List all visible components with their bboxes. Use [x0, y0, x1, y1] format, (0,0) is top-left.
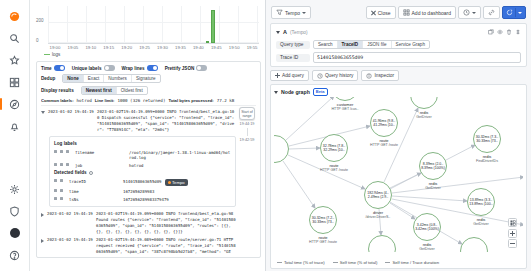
- toggle-label: Unique labels: [72, 66, 102, 71]
- graph-node[interactable]: [460, 237, 488, 252]
- wrap-lines-toggle[interactable]: [147, 65, 158, 71]
- oldest-first[interactable]: Oldest first: [117, 87, 147, 94]
- log-rows: 2023-01-02 19:44:19 2023-01-02T19:44:19.…: [41, 105, 256, 255]
- time-toggle[interactable]: [54, 65, 65, 71]
- dedup-signature[interactable]: Signature: [132, 75, 160, 82]
- tab-traceid[interactable]: TraceID: [338, 41, 364, 48]
- tab-search[interactable]: Search: [314, 41, 338, 48]
- log-row[interactable]: 2023-01-02 19:44:19 2023-01-02T19:44:19.…: [41, 236, 236, 255]
- graph-node[interactable]: 3.42ms (0.8..3.42ms (100%) redisGetDrive…: [413, 213, 441, 241]
- query-history-button[interactable]: Query history: [312, 70, 359, 81]
- run-query-button[interactable]: [502, 6, 526, 19]
- stats-icon[interactable]: [54, 197, 57, 200]
- explore-right-pane: Tempo Close Add to dashboard: [266, 0, 531, 271]
- beta-badge: Beta: [313, 88, 328, 96]
- close-split-button[interactable]: Close: [366, 6, 396, 19]
- log-volume-bar: [206, 41, 209, 43]
- share-link-button[interactable]: [483, 6, 500, 19]
- field-row: time 1672656289983: [54, 187, 231, 195]
- grafana-logo-icon[interactable]: [7, 8, 23, 24]
- help-icon[interactable]: [7, 247, 23, 263]
- start-of-range-button[interactable]: Start of range: [239, 107, 255, 120]
- filter-for-icon[interactable]: [60, 163, 63, 166]
- layout-grid-button[interactable]: [508, 218, 517, 227]
- logs-panel: Time Unique labels Wrap lines Prettify J…: [36, 61, 261, 258]
- collapse-icon[interactable]: [274, 91, 278, 94]
- chevron-down-icon: [302, 12, 306, 14]
- dedup-exact[interactable]: Exact: [84, 75, 105, 82]
- filter-out-icon[interactable]: [66, 163, 69, 166]
- graph-node[interactable]: [368, 235, 396, 252]
- graph-node[interactable]: 30.32ms (7.3..30.33ms (73.. redisFindDri…: [473, 125, 501, 153]
- stats-icon[interactable]: [54, 189, 57, 192]
- log-row[interactable]: 2023-01-02 19:44:19 2023-01-02T19:44:19.…: [41, 210, 236, 236]
- drag-handle-icon[interactable]: [515, 29, 521, 35]
- stats-icon[interactable]: [54, 179, 57, 182]
- y-tick: 0: [36, 38, 39, 43]
- nav-range-line: [247, 128, 248, 136]
- graph-node[interactable]: redisGetDriver: [410, 97, 438, 109]
- label-row: filename /root/binary/jaeger-1.38.1-linu…: [54, 148, 231, 161]
- trace-id-input[interactable]: [313, 52, 521, 63]
- starred-icon[interactable]: [7, 52, 23, 68]
- query-datasource-hint: (Tempo): [290, 30, 308, 35]
- expand-icon[interactable]: [41, 213, 44, 217]
- tab-service-graph[interactable]: Service Graph: [392, 41, 429, 48]
- apps-icon: [403, 9, 410, 16]
- chevron-down-icon[interactable]: [518, 12, 522, 14]
- inspector-button[interactable]: Inspector: [361, 70, 399, 81]
- filter-out-icon[interactable]: [66, 150, 69, 153]
- zoom-in-button[interactable]: [508, 229, 517, 238]
- graph-node[interactable]: 182.94ms (4..2.49ms (2.9.. driver/driver…: [364, 181, 392, 209]
- expand-icon[interactable]: [41, 239, 44, 243]
- dedup-none[interactable]: None: [63, 75, 83, 82]
- node-graph-legend: Total time (% of trace) Self time (% of …: [275, 259, 441, 266]
- graph-node[interactable]: 30.32ms (7.2..30.33ms (73.. routeHTTP GE…: [309, 206, 337, 234]
- tab-json-file[interactable]: JSON file: [363, 41, 391, 48]
- collapse-icon[interactable]: [276, 31, 280, 34]
- graph-node[interactable]: customerHTTP GET /cus..: [331, 97, 359, 101]
- server-admin-shield-icon[interactable]: [7, 203, 23, 219]
- prettify-json-toggle[interactable]: [196, 65, 207, 71]
- log-row[interactable]: 2023-01-02 19:44:19 2023-01-02T19:44:19.…: [41, 108, 236, 134]
- hide-query-eye-icon[interactable]: [497, 29, 503, 35]
- time-picker-button[interactable]: [458, 6, 481, 19]
- node-graph-canvas[interactable]: 41.96ms (9.8..41.29ms (10.. routeHTTP GE…: [274, 97, 523, 252]
- filter-for-icon[interactable]: [60, 150, 63, 153]
- unique-labels-toggle[interactable]: [104, 65, 115, 71]
- collapse-icon[interactable]: [41, 111, 45, 114]
- visibility-icon[interactable]: [60, 179, 63, 182]
- graph-node[interactable]: 32.78ms (7.8..32.29ms (10.. routeHTTP GE…: [320, 134, 348, 162]
- graph-node[interactable]: 8.39ms (2.0..8.39ms (100%) redisGetDrive…: [419, 152, 447, 180]
- logs-volume-chart: 200 0 19:0019:0519:1019:1519:2019:2519:3…: [36, 6, 261, 57]
- graph-node[interactable]: [274, 135, 289, 163]
- history-icon: [317, 73, 323, 79]
- datasource-picker[interactable]: Tempo: [271, 6, 311, 19]
- add-query-button[interactable]: Add query: [270, 70, 309, 81]
- duplicate-query-icon[interactable]: [488, 29, 494, 35]
- remove-query-trash-icon[interactable]: [506, 29, 512, 35]
- search-icon[interactable]: [7, 30, 23, 46]
- visibility-icon[interactable]: [60, 197, 63, 200]
- close-icon: [371, 10, 376, 15]
- tempo-link-button[interactable]: Tempo: [165, 179, 188, 186]
- graph-node[interactable]: 13.89ms (3.3..13.89ms (100.. redisGetDri…: [467, 188, 495, 216]
- newest-first[interactable]: Newest first: [82, 87, 117, 94]
- add-to-dashboard-button[interactable]: Add to dashboard: [398, 6, 456, 19]
- explore-icon[interactable]: [7, 96, 23, 112]
- dedup-numbers[interactable]: Numbers: [104, 75, 132, 82]
- plus-icon: [275, 73, 280, 78]
- avatar[interactable]: [7, 225, 23, 241]
- log-labels-title: Log labels: [54, 141, 231, 146]
- dashboards-icon[interactable]: [7, 74, 23, 90]
- nav-time-top: 19:44:19: [240, 122, 255, 126]
- stats-icon[interactable]: [54, 150, 57, 153]
- legend-dash: [333, 262, 338, 264]
- stats-icon[interactable]: [54, 163, 57, 166]
- visibility-icon[interactable]: [60, 189, 63, 192]
- zoom-out-button[interactable]: [508, 239, 517, 248]
- alerting-icon[interactable]: [7, 118, 23, 134]
- chart-legend-item[interactable]: logs: [44, 52, 261, 57]
- configuration-gear-icon[interactable]: [7, 181, 23, 197]
- legend-dash: [277, 262, 282, 264]
